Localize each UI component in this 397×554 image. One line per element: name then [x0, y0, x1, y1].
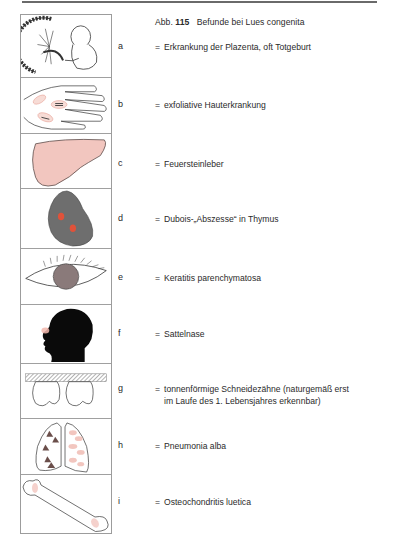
finding-text: Dubois-„Abszesse“ in Thymus: [164, 214, 278, 224]
equals-sign: =: [155, 496, 164, 508]
finding-letter: d: [118, 213, 123, 223]
lungs-icon: [21, 419, 111, 474]
panel-f: [21, 305, 111, 364]
finding-description: =Feuersteinleber: [155, 158, 224, 170]
finding-description: =Pneumonia alba: [155, 440, 226, 452]
panel-a: [21, 15, 111, 78]
equals-sign: =: [155, 328, 164, 340]
equals-sign: =: [155, 99, 164, 111]
finding-description: =exfoliative Hauterkrankung: [155, 99, 266, 111]
eye-icon: [21, 249, 111, 304]
finding-text: Pneumonia alba: [164, 441, 226, 451]
incisor-teeth-icon: [21, 364, 111, 418]
finding-text: Osteochondritis luetica: [164, 497, 251, 507]
finding-text-continued: im Laufe des 1. Lebensjahres erkennbar): [155, 395, 349, 407]
caption-number: 115: [175, 17, 189, 27]
finding-text: Keratitis parenchymatosa: [164, 273, 261, 283]
panel-d: [21, 189, 111, 249]
equals-sign: =: [155, 383, 164, 395]
finding-letter: a: [118, 41, 123, 51]
equals-sign: =: [155, 272, 164, 284]
finding-letter: e: [118, 272, 123, 282]
finding-letter: g: [118, 383, 123, 393]
finding-description: =Keratitis parenchymatosa: [155, 272, 261, 284]
liver-icon: [21, 134, 111, 188]
panel-g: [21, 364, 111, 419]
thymus-icon: [21, 189, 111, 248]
finding-letter: c: [118, 158, 123, 168]
finding-text: Feuersteinleber: [164, 159, 224, 169]
finding-text: Sattelnase: [164, 329, 205, 339]
finding-text: Erkrankung der Plazenta, oft Totgeburt: [164, 42, 311, 52]
caption-prefix: Abb.: [155, 17, 173, 27]
equals-sign: =: [155, 440, 164, 452]
finding-description: =Dubois-„Abszesse“ in Thymus: [155, 213, 278, 225]
finding-description: =Erkrankung der Plazenta, oft Totgeburt: [155, 41, 311, 53]
hand-skin-lesions-icon: [21, 78, 111, 133]
equals-sign: =: [155, 158, 164, 170]
finding-letter: h: [118, 440, 123, 450]
finding-description: =Sattelnase: [155, 328, 205, 340]
head-profile-icon: [21, 305, 111, 363]
equals-sign: =: [155, 213, 164, 225]
illustration-column: [20, 14, 112, 534]
placenta-fetus-icon: [21, 15, 111, 77]
equals-sign: =: [155, 41, 164, 53]
panel-c: [21, 134, 111, 189]
finding-description: =tonnenförmige Schneidezähne (naturgemäß…: [155, 383, 349, 407]
panel-i: [21, 475, 111, 533]
finding-letter: b: [118, 99, 123, 109]
finding-letter: f: [118, 328, 121, 338]
panel-e: [21, 249, 111, 305]
finding-description: =Osteochondritis luetica: [155, 496, 251, 508]
figure-caption: Abb. 115 Befunde bei Lues congenita: [155, 17, 305, 27]
bone-icon: [21, 475, 111, 533]
finding-text: exfoliative Hauterkrankung: [164, 100, 266, 110]
caption-title: Befunde bei Lues congenita: [197, 17, 305, 27]
finding-text: tonnenförmige Schneidezähne (naturgemäß …: [164, 384, 349, 394]
top-rule: [22, 1, 377, 3]
panel-b: [21, 78, 111, 134]
panel-h: [21, 419, 111, 475]
finding-letter: i: [118, 496, 120, 506]
